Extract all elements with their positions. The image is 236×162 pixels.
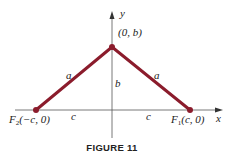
- y-axis-arrow-icon: [110, 11, 115, 19]
- height-b-label: b: [115, 77, 121, 89]
- right-c-label: c: [146, 110, 151, 122]
- left-a-label: a: [66, 69, 72, 81]
- left-c-label: c: [71, 110, 76, 122]
- top-point-label: (0, b): [118, 26, 142, 39]
- y-axis-label: y: [119, 7, 125, 19]
- ellipse-foci-diagram: y x (0, b) a a b c c F2(−c, 0) F1(c, 0) …: [0, 0, 236, 162]
- point-top-vertex: [109, 44, 115, 50]
- right-focus-label: F1(c, 0): [170, 113, 205, 127]
- segments: [33, 44, 193, 113]
- focal-lines: [36, 47, 190, 110]
- left-focus-label: F2(−c, 0): [8, 113, 50, 127]
- figure-caption: FIGURE 11: [86, 142, 138, 153]
- right-a-label: a: [154, 69, 160, 81]
- svg-text:F2(−c, 0): F2(−c, 0): [8, 113, 50, 127]
- svg-text:F1(c, 0): F1(c, 0): [170, 113, 205, 127]
- x-axis-label: x: [215, 112, 221, 124]
